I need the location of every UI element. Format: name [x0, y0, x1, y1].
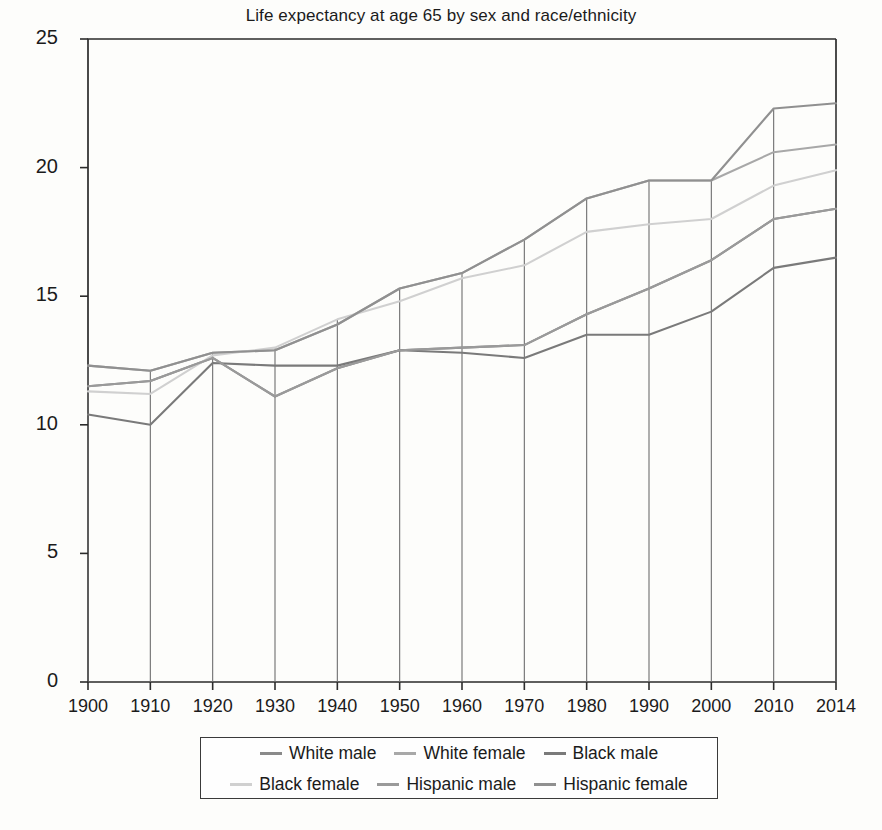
legend-label: White male: [289, 743, 377, 764]
y-tick-label: 15: [12, 283, 58, 306]
x-tick-label: 1900: [53, 696, 123, 717]
legend-label: White female: [423, 743, 525, 764]
x-tick-label: 2014: [801, 696, 871, 717]
y-tick-label: 5: [12, 540, 58, 563]
x-tick-label: 1990: [614, 696, 684, 717]
legend-label: Hispanic male: [406, 774, 516, 795]
legend-row: Black femaleHispanic maleHispanic female: [201, 769, 717, 800]
x-tick-label: 1940: [302, 696, 372, 717]
legend-line-swatch-icon: [544, 752, 566, 754]
legend-label: Black female: [259, 774, 359, 795]
legend-line-swatch-icon: [534, 783, 556, 785]
y-tick-label: 25: [12, 26, 58, 49]
chart-legend: White maleWhite femaleBlack male Black f…: [200, 737, 718, 799]
x-tick-label: 2000: [676, 696, 746, 717]
legend-item-white-female[interactable]: White female: [385, 743, 534, 764]
legend-label: Black male: [573, 743, 659, 764]
x-tick-label: 1960: [427, 696, 497, 717]
x-tick-label: 1910: [115, 696, 185, 717]
x-tick-label: 1930: [240, 696, 310, 717]
legend-line-swatch-icon: [377, 783, 399, 785]
x-tick-label: 1920: [178, 696, 248, 717]
y-tick-label: 0: [12, 669, 58, 692]
y-tick-label: 10: [12, 412, 58, 435]
x-tick-label: 1950: [365, 696, 435, 717]
chart-container: Life expectancy at age 65 by sex and rac…: [0, 0, 882, 830]
legend-item-hispanic-female[interactable]: Hispanic female: [525, 774, 697, 795]
legend-label: Hispanic female: [563, 774, 688, 795]
legend-line-swatch-icon: [230, 783, 252, 785]
legend-item-black-male[interactable]: Black male: [535, 743, 668, 764]
category-droplines: [88, 103, 836, 682]
legend-row: White maleWhite femaleBlack male: [201, 738, 717, 769]
legend-item-hispanic-male[interactable]: Hispanic male: [368, 774, 525, 795]
y-tick-label: 20: [12, 155, 58, 178]
legend-item-white-male[interactable]: White male: [251, 743, 386, 764]
x-tick-label: 1970: [489, 696, 559, 717]
legend-line-swatch-icon: [260, 752, 282, 754]
x-tick-label: 2010: [739, 696, 809, 717]
x-tick-label: 1980: [552, 696, 622, 717]
legend-item-black-female[interactable]: Black female: [221, 774, 368, 795]
legend-line-swatch-icon: [394, 752, 416, 754]
